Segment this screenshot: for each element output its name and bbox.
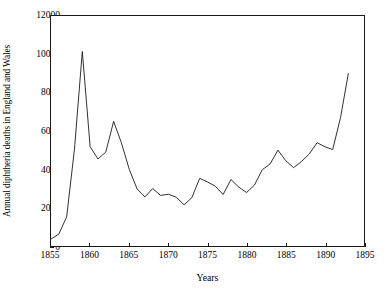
x-tick-label: 1895 [345, 250, 385, 261]
x-tick-label: 1855 [30, 250, 70, 261]
x-tick-label: 1885 [266, 250, 306, 261]
x-tick-label: 1875 [188, 250, 228, 261]
y-tick-mark [50, 247, 54, 248]
x-tick-mark [50, 243, 51, 247]
plot-area [50, 15, 365, 247]
chart-figure: Annual diphtheria deaths in England and … [0, 0, 390, 291]
x-axis-label: Years [50, 272, 365, 284]
x-tick-mark [365, 243, 366, 247]
x-tick-label: 1865 [109, 250, 149, 261]
x-tick-label: 1870 [148, 250, 188, 261]
x-tick-mark [89, 243, 90, 247]
x-tick-mark [326, 243, 327, 247]
x-tick-label: 1890 [306, 250, 346, 261]
x-tick-mark [286, 243, 287, 247]
x-tick-label: 1860 [69, 250, 109, 261]
x-tick-mark [168, 243, 169, 247]
x-tick-mark [247, 243, 248, 247]
data-series-line [51, 51, 348, 239]
plot-canvas [51, 16, 364, 246]
x-tick-mark [129, 243, 130, 247]
x-tick-mark [208, 243, 209, 247]
x-tick-label: 1880 [227, 250, 267, 261]
